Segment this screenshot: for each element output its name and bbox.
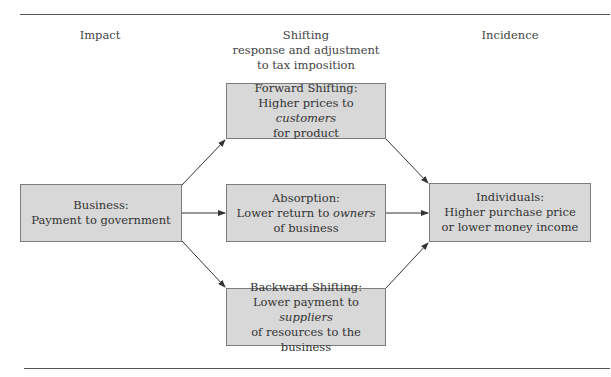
header-shifting-sub1: response and adjustment [216,43,396,58]
box-backward-line1-text: Lower payment to [253,295,359,309]
header-incidence-label: Incidence [482,28,539,42]
arrow-backward-to-individuals [386,243,428,288]
header-shifting-sub2: to tax imposition [216,58,396,73]
header-impact-label: Impact [80,28,121,42]
header-impact: Impact [40,28,160,43]
bottom-rule [24,368,610,369]
box-absorption-title: Absorption: [272,191,340,206]
box-absorption-line1-emphasis: owners [333,206,375,220]
box-backward-title: Backward Shifting: [250,280,362,295]
box-forward-line1-text: Higher prices to [258,96,353,110]
box-business-line1: Payment to government [31,213,170,228]
box-forward-line1-emphasis: customers [276,111,336,125]
box-business-title: Business: [73,198,128,213]
box-backward-shifting: Backward Shifting: Lower payment to supp… [226,288,386,346]
box-individuals: Individuals: Higher purchase price or lo… [429,183,591,242]
top-rule [20,14,610,15]
box-individuals-line2: or lower money income [442,220,579,235]
box-backward-line2: of resources to the business [227,325,385,355]
box-backward-line1: Lower payment to suppliers [227,295,385,325]
box-forward-shifting: Forward Shifting: Higher prices to custo… [226,83,386,139]
arrow-business-to-backward [182,241,225,287]
box-forward-line1: Higher prices to customers [227,96,385,126]
box-individuals-title: Individuals: [476,190,544,205]
box-business: Business: Payment to government [20,184,182,242]
box-backward-line1-emphasis: suppliers [279,310,333,324]
box-absorption-line2: of business [273,221,338,236]
box-absorption-line1: Lower return to owners [237,206,376,221]
box-individuals-line1: Higher purchase price [444,205,576,220]
box-forward-line2: for product [273,126,339,141]
box-absorption-line1-text: Lower return to [237,206,333,220]
header-incidence: Incidence [450,28,570,43]
box-absorption: Absorption: Lower return to owners of bu… [226,184,386,242]
header-shifting: Shifting response and adjustment to tax … [216,28,396,73]
arrow-business-to-forward [182,140,225,185]
arrow-forward-to-individuals [386,139,428,183]
header-shifting-title: Shifting [216,28,396,43]
box-forward-title: Forward Shifting: [254,81,357,96]
